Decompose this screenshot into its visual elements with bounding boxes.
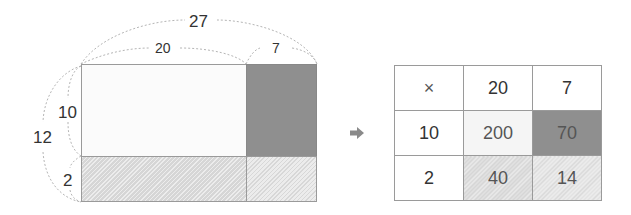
height-part-10-label: 10 <box>58 104 77 121</box>
table-header-row: × 20 7 <box>395 66 602 111</box>
row-header-2: 2 <box>395 156 464 201</box>
header-cell-20: 20 <box>464 66 533 111</box>
product-cell-200: 200 <box>464 111 533 156</box>
row-header-10: 10 <box>395 111 464 156</box>
height-part-2-label: 2 <box>63 172 72 189</box>
area-top-left <box>81 64 247 157</box>
header-cell-7: 7 <box>533 66 602 111</box>
width-part-20-label: 20 <box>155 41 171 55</box>
product-cell-70: 70 <box>533 111 602 156</box>
total-width-label: 27 <box>189 13 208 30</box>
multiplication-table: × 20 7 10 200 70 2 40 14 <box>394 65 602 201</box>
area-top-right <box>246 64 317 157</box>
right-arrow-icon <box>350 127 364 139</box>
times-symbol-cell: × <box>395 66 464 111</box>
total-height-label: 12 <box>33 129 52 146</box>
area-bottom-left <box>81 156 247 202</box>
table-row: 10 200 70 <box>395 111 602 156</box>
product-cell-14: 14 <box>533 156 602 201</box>
area-bottom-right <box>246 156 317 202</box>
product-cell-40: 40 <box>464 156 533 201</box>
table-row: 2 40 14 <box>395 156 602 201</box>
width-part-7-label: 7 <box>272 41 280 55</box>
